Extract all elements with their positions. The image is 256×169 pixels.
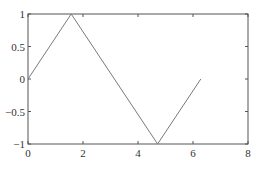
y-tick-label: 1 — [20, 8, 26, 20]
y-tick-label: 0.5 — [11, 41, 25, 53]
line-chart: 02468 −1−0.500.51 — [0, 0, 256, 169]
y-tick-label: −0.5 — [5, 106, 25, 118]
plot-area — [28, 14, 248, 144]
x-tick-label: 0 — [25, 147, 31, 159]
x-tick-label: 4 — [135, 147, 141, 159]
y-tick-label: 0 — [20, 73, 26, 85]
x-tick-label: 8 — [245, 147, 251, 159]
x-tick-label: 6 — [190, 147, 196, 159]
x-tick-label: 2 — [80, 147, 86, 159]
y-tick-label: −1 — [13, 138, 25, 150]
